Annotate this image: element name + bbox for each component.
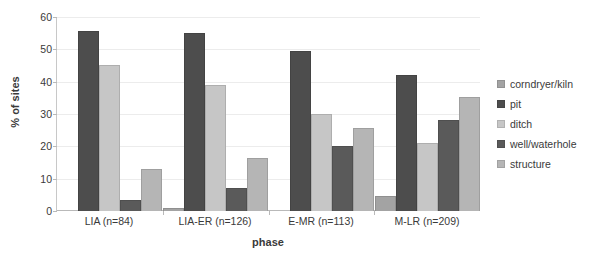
y-tick-label: 30: [10, 108, 52, 120]
bar: [332, 146, 353, 211]
bar: [290, 51, 311, 211]
bar: [247, 158, 268, 211]
legend-label: ditch: [510, 118, 532, 130]
x-tick-label: LIA (n=84): [56, 215, 162, 227]
x-tick-label: M-LR (n=209): [374, 215, 480, 227]
plot-area: 0102030405060: [56, 17, 480, 211]
legend-label: corndryer/kiln: [510, 78, 573, 90]
bar: [438, 120, 459, 211]
legend-swatch-icon: [497, 140, 505, 148]
y-tick-label: 10: [10, 173, 52, 185]
legend-swatch-icon: [497, 80, 505, 88]
y-tick-label: 60: [10, 11, 52, 23]
bar: [459, 97, 480, 211]
bar-chart: % of sites 0102030405060 LIA (n=84)LIA-E…: [0, 0, 589, 258]
legend-label: well/waterhole: [510, 138, 577, 150]
legend-label: pit: [510, 98, 521, 110]
bar: [99, 65, 120, 211]
bar: [78, 31, 99, 211]
bar: [226, 188, 247, 211]
legend-item[interactable]: structure: [497, 158, 577, 170]
bar-groups: [57, 17, 480, 211]
bar-group: [269, 17, 375, 211]
x-tick-labels: LIA (n=84)LIA-ER (n=126)E-MR (n=113)M-LR…: [56, 215, 480, 227]
legend-swatch-icon: [497, 160, 505, 168]
y-axis-title: % of sites: [9, 57, 21, 147]
x-tick-label: LIA-ER (n=126): [162, 215, 268, 227]
x-tick-label: E-MR (n=113): [268, 215, 374, 227]
legend-swatch-icon: [497, 120, 505, 128]
bar-group: [163, 17, 269, 211]
legend: corndryer/kilnpitditchwell/waterholestru…: [497, 78, 577, 170]
y-tick-label: 0: [10, 205, 52, 217]
bar: [163, 208, 184, 211]
bar-group: [374, 17, 480, 211]
bar: [396, 75, 417, 211]
y-tick-label: 50: [10, 43, 52, 55]
bar: [353, 128, 374, 211]
bar: [141, 169, 162, 211]
legend-label: structure: [510, 158, 551, 170]
bar: [375, 196, 396, 211]
legend-item[interactable]: ditch: [497, 118, 577, 130]
legend-item[interactable]: pit: [497, 98, 577, 110]
bar: [184, 33, 205, 211]
y-tick-label: 20: [10, 140, 52, 152]
legend-item[interactable]: corndryer/kiln: [497, 78, 577, 90]
bar: [120, 200, 141, 211]
legend-item[interactable]: well/waterhole: [497, 138, 577, 150]
bar: [417, 143, 438, 211]
bar: [311, 114, 332, 211]
y-tick-mark: [53, 211, 57, 212]
bar-group: [57, 17, 163, 211]
legend-swatch-icon: [497, 100, 505, 108]
x-axis-title: phase: [56, 236, 480, 248]
y-tick-label: 40: [10, 76, 52, 88]
bar: [205, 85, 226, 211]
